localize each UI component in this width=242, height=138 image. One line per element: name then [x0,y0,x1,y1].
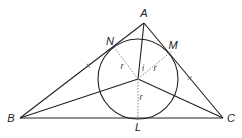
tangent-label-l: L [135,121,141,133]
diagram-canvas: A B C N M L r r r i [0,0,242,138]
radius-in [114,47,138,79]
vertex-label-b: B [7,112,14,124]
tangent-label-n: N [106,35,114,47]
bisector-c [138,79,223,118]
radius-label: r [121,61,125,71]
triangle-incircle-diagram: A B C N M L r r r i [0,0,242,138]
vertex-label-c: C [227,112,235,124]
tangent-label-m: M [168,39,178,51]
radius-label: r [140,92,144,102]
radius-label: r [154,63,158,73]
bisector-b [20,79,138,118]
side-ab [20,23,144,118]
vertex-label-a: A [139,7,147,19]
incenter-label: i [142,63,145,73]
